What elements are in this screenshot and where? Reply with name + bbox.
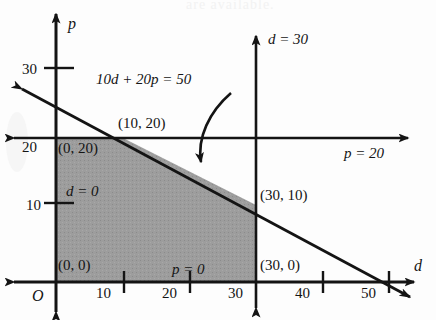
y-tick-label-10: 10 bbox=[26, 198, 41, 213]
y-tick-label-30: 30 bbox=[22, 62, 37, 77]
x-tick-label-40: 40 bbox=[295, 286, 310, 301]
x-axis-label: d bbox=[414, 258, 422, 274]
x-tick-label-50: 50 bbox=[361, 286, 376, 301]
p-equals-0-label: p = 0 bbox=[172, 262, 205, 277]
vertex-label-origin: (0, 0) bbox=[58, 258, 91, 273]
y-tick-label-20: 20 bbox=[22, 140, 37, 155]
x-tick-label-20: 20 bbox=[162, 286, 177, 301]
x-tick-label-10: 10 bbox=[96, 286, 111, 301]
budget-equation-label: 10d + 20p = 50 bbox=[96, 72, 191, 87]
vertex-label-10-20: (10, 20) bbox=[118, 116, 166, 131]
equation-leader-arrow bbox=[200, 93, 231, 162]
vertex-label-30-0: (30, 0) bbox=[260, 258, 300, 273]
vertex-label-0-20: (0, 20) bbox=[58, 141, 98, 156]
y-axis-label: p bbox=[68, 16, 76, 32]
p-equals-20-label: p = 20 bbox=[344, 146, 384, 161]
x-tick-label-30: 30 bbox=[228, 286, 243, 301]
origin-label: O bbox=[32, 288, 44, 304]
d-equals-30-label: d = 30 bbox=[268, 32, 308, 47]
vertex-label-30-10: (30, 10) bbox=[260, 188, 308, 203]
graph-figure: are available. bbox=[0, 0, 436, 320]
d-equals-0-label: d = 0 bbox=[66, 184, 99, 199]
